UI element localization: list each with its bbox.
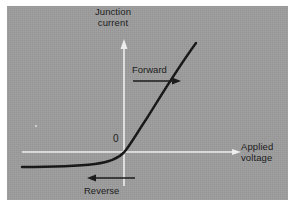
forward-arrow-icon — [132, 75, 184, 87]
chart-panel — [7, 6, 288, 200]
x-axis — [22, 149, 241, 155]
diode-curve — [22, 43, 196, 167]
x-axis-arrowhead-icon — [232, 149, 241, 155]
forward-annotation: Forward — [132, 64, 192, 87]
y-axis-label: Junction current — [78, 6, 148, 28]
x-axis-label: Applied voltage — [241, 141, 273, 163]
reverse-label: Reverse — [84, 185, 144, 196]
y-axis-label-line1: Junction — [78, 6, 148, 17]
y-axis-label-line2: current — [78, 17, 148, 28]
y-axis — [121, 39, 128, 186]
reverse-annotation: Reverse — [84, 172, 144, 196]
x-axis-label-line1: Applied — [241, 141, 273, 152]
chart-plot-area — [7, 6, 288, 200]
forward-label: Forward — [132, 64, 192, 75]
origin-label: 0 — [113, 133, 119, 144]
x-axis-label-line2: voltage — [241, 152, 273, 163]
paper-speck-artifact — [35, 125, 37, 127]
y-axis-arrowhead-icon — [121, 39, 128, 49]
diode-iv-characteristic-figure: Junction current Applied voltage 0 Forwa… — [0, 0, 295, 211]
reverse-arrow-icon — [84, 172, 136, 184]
